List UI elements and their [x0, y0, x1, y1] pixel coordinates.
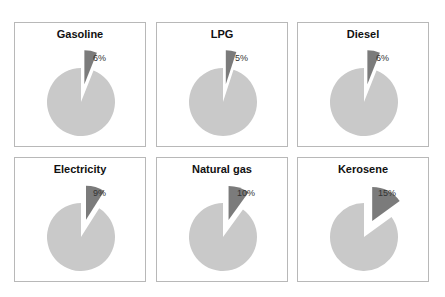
pie-slice-remainder: [330, 68, 398, 136]
pie-panel-diesel: Diesel 6%: [297, 22, 429, 147]
pie-chart: 9%: [15, 158, 147, 283]
percent-label: 10%: [237, 188, 255, 198]
pie-slice-remainder: [47, 203, 115, 271]
percent-label: 15%: [378, 188, 396, 198]
pie-panel-kerosene: Kerosene 15%: [297, 157, 429, 282]
pie-chart: 6%: [15, 23, 147, 148]
percent-label: 6%: [376, 53, 389, 63]
percent-label: 9%: [93, 188, 106, 198]
percent-label: 6%: [93, 53, 106, 63]
percent-label: 5%: [235, 53, 248, 63]
pie-panel-lpg: LPG 5%: [156, 22, 288, 147]
pie-slice-remainder: [189, 68, 257, 136]
pie-slice-remainder: [189, 203, 257, 271]
pie-slice-remainder: [330, 203, 398, 271]
pie-chart: 15%: [298, 158, 430, 283]
pie-chart: 6%: [298, 23, 430, 148]
pie-panel-gasoline: Gasoline 6%: [14, 22, 146, 147]
pie-panel-natural-gas: Natural gas 10%: [156, 157, 288, 282]
pie-chart: 5%: [157, 23, 289, 148]
pie-chart: 10%: [157, 158, 289, 283]
pie-slice-remainder: [47, 68, 115, 136]
pie-panel-electricity: Electricity 9%: [14, 157, 146, 282]
